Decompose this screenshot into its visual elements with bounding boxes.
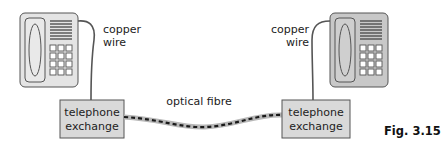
left-exchange-label-line2: exchange — [65, 120, 119, 133]
right-speaker-grille — [360, 21, 382, 39]
left-telephone-icon — [20, 13, 78, 87]
telephone-network-diagram: copper wire telephone exchange optical f… — [0, 0, 442, 155]
right-wire-label-line2: wire — [286, 36, 309, 49]
optical-fibre-cable — [124, 115, 282, 127]
optical-fibre-label: optical fibre — [166, 95, 232, 108]
right-telephone-exchange: telephone exchange — [282, 100, 350, 138]
left-exchange-label-line1: telephone — [64, 106, 120, 119]
figure-label: Fig. 3.15 — [384, 124, 441, 138]
left-wire-label-line2: wire — [103, 36, 126, 49]
right-exchange-label-line2: exchange — [289, 120, 343, 133]
right-copper-wire — [312, 21, 330, 100]
right-wire-label-line1: copper — [271, 23, 310, 36]
right-exchange-label-line1: telephone — [288, 106, 344, 119]
right-telephone-icon — [330, 13, 388, 87]
left-copper-wire — [78, 21, 94, 100]
left-wire-label-line1: copper — [103, 23, 142, 36]
left-telephone-exchange: telephone exchange — [60, 100, 124, 138]
left-speaker-grille — [50, 21, 72, 39]
